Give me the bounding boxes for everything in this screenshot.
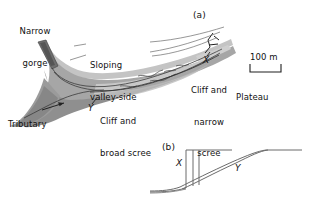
label-cliff-broad-line1: Cliff and xyxy=(100,116,151,127)
panel-label-a: (a) xyxy=(193,10,206,21)
marker-y-label-b: Y xyxy=(235,163,241,174)
label-cliff-narrow-line3: scree xyxy=(178,148,240,159)
marker-y-label-a: Y xyxy=(88,103,94,114)
figure-valley-geomorphology: Narrow gorge Sloping valley-side Cliff a… xyxy=(0,0,316,205)
label-tributary: Tributary xyxy=(8,119,47,130)
label-sloping-line1: Sloping xyxy=(90,60,137,71)
label-cliff-narrow-line2: narrow xyxy=(178,117,240,128)
label-narrow-gorge-line1: Narrow xyxy=(4,26,66,37)
label-plateau: Plateau xyxy=(236,92,269,103)
label-cliff-and-narrow-scree: Cliff and narrow scree xyxy=(178,64,240,180)
label-cliff-broad-line2: broad scree xyxy=(100,148,151,159)
label-cliff-and-broad-scree: Cliff and broad scree xyxy=(100,95,151,179)
panel-label-b: (b) xyxy=(162,142,175,153)
scale-bar-label: 100 m xyxy=(250,52,278,63)
scale-bar xyxy=(250,64,281,72)
label-narrow-gorge-line2: gorge xyxy=(4,58,66,69)
label-cliff-narrow-line1: Cliff and xyxy=(178,85,240,96)
marker-x-label-a: X xyxy=(203,55,209,66)
marker-x-label-b: X xyxy=(176,158,182,169)
label-narrow-gorge: Narrow gorge xyxy=(4,5,66,89)
